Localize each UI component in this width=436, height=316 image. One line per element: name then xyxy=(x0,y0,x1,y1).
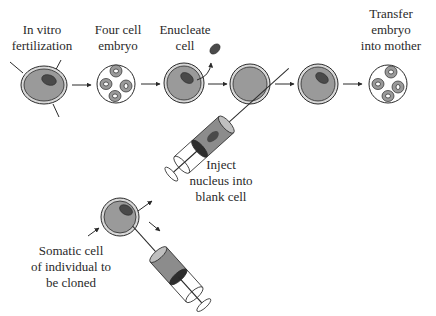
label-four-cell: Four cell embryo xyxy=(88,22,148,54)
arrow-to-somatic xyxy=(88,228,99,236)
label-four-cell-line2: embryo xyxy=(88,38,148,54)
label-inject-line3: blank cell xyxy=(185,189,257,205)
reconstructed-egg xyxy=(298,64,338,104)
label-ivf-line2: fertilization xyxy=(8,38,76,54)
blank-egg xyxy=(230,64,270,104)
arrow-extract xyxy=(149,222,160,231)
label-somatic-line3: be cloned xyxy=(24,275,118,291)
label-somatic-line2: of individual to xyxy=(24,259,118,275)
label-four-cell-line1: Four cell xyxy=(88,22,148,38)
label-transfer: Transfer embryo into mother xyxy=(355,6,427,54)
label-enucleate-line2: cell xyxy=(155,38,215,54)
label-transfer-line2: embryo xyxy=(355,22,427,38)
label-somatic-line1: Somatic cell xyxy=(24,243,118,259)
label-somatic: Somatic cell of individual to be cloned xyxy=(24,243,118,291)
label-transfer-line1: Transfer xyxy=(355,6,427,22)
label-ivf: In vitro fertilization xyxy=(8,22,76,54)
arrow-to-syringe xyxy=(138,201,152,211)
label-enucleate: Enucleate cell xyxy=(155,22,215,54)
label-inject: Inject nucleus into blank cell xyxy=(185,157,257,205)
somatic-cell xyxy=(101,198,139,236)
label-inject-line2: nucleus into xyxy=(185,173,257,189)
extraction-syringe xyxy=(125,219,214,315)
label-transfer-line3: into mother xyxy=(355,38,427,54)
label-enucleate-line1: Enucleate xyxy=(155,22,215,38)
ivf-egg xyxy=(10,60,67,117)
four-cell-embryo xyxy=(97,65,135,103)
label-inject-line1: Inject xyxy=(185,157,257,173)
transfer-embryo xyxy=(369,65,407,103)
label-ivf-line1: In vitro xyxy=(8,22,76,38)
